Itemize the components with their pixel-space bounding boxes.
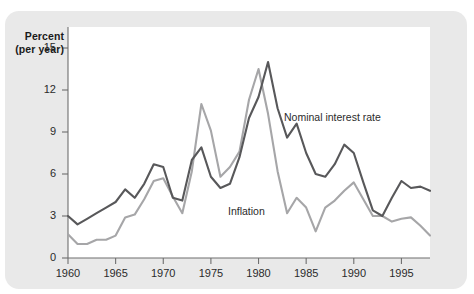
series-line-nominal xyxy=(68,62,430,224)
y-tick-label-0: 0 xyxy=(30,251,56,263)
chart-svg xyxy=(0,0,474,294)
x-tick-label-1985: 1985 xyxy=(284,267,328,279)
x-tick-label-1960: 1960 xyxy=(46,267,90,279)
x-tick-label-1990: 1990 xyxy=(332,267,376,279)
y-tick-label-15: 15 xyxy=(30,41,56,53)
y-tick-label-3: 3 xyxy=(30,209,56,221)
y-tick-label-6: 6 xyxy=(30,167,56,179)
x-tick-label-1975: 1975 xyxy=(189,267,233,279)
x-axis-ticks xyxy=(68,258,401,264)
x-tick-label-1970: 1970 xyxy=(141,267,185,279)
x-tick-label-1965: 1965 xyxy=(94,267,138,279)
series-line-inflation xyxy=(68,69,430,244)
figure-root: Percent (per year) 03691215 196019651970… xyxy=(0,0,474,294)
x-tick-label-1980: 1980 xyxy=(237,267,281,279)
y-tick-label-12: 12 xyxy=(30,83,56,95)
x-tick-label-1995: 1995 xyxy=(379,267,423,279)
y-tick-label-9: 9 xyxy=(30,125,56,137)
series-annotation-nominal: Nominal interest rate xyxy=(284,111,381,123)
y-axis-ticks xyxy=(62,48,68,258)
series-annotation-inflation: Inflation xyxy=(228,205,265,217)
